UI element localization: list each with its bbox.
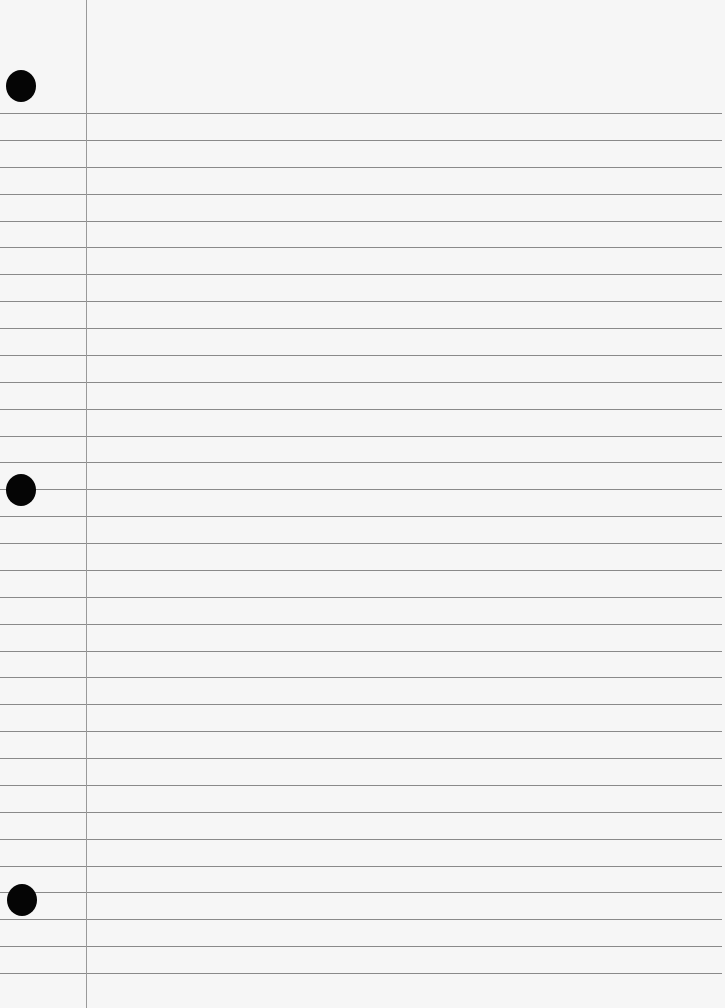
ruled-line: [0, 839, 722, 840]
ruled-line: [0, 167, 722, 168]
margin-line: [86, 0, 87, 1008]
punch-hole: [6, 474, 36, 506]
ruled-line: [0, 274, 722, 275]
ruled-line: [0, 731, 722, 732]
punch-hole: [6, 70, 36, 102]
ruled-line: [0, 597, 722, 598]
ruled-line: [0, 651, 722, 652]
ruled-line: [0, 973, 722, 974]
ruled-line: [0, 866, 722, 867]
ruled-line: [0, 113, 722, 114]
ruled-line: [0, 436, 722, 437]
ruled-line: [0, 301, 722, 302]
ruled-line: [0, 785, 722, 786]
ruled-line: [0, 677, 722, 678]
notebook-paper: [0, 0, 725, 1008]
ruled-line: [0, 946, 722, 947]
ruled-line: [0, 516, 722, 517]
ruled-line: [0, 624, 722, 625]
ruled-line: [0, 812, 722, 813]
ruled-line: [0, 221, 722, 222]
ruled-line: [0, 382, 722, 383]
ruled-line: [0, 570, 722, 571]
ruled-line: [0, 462, 722, 463]
ruled-line: [0, 704, 722, 705]
ruled-line: [0, 247, 722, 248]
ruled-line: [0, 758, 722, 759]
ruled-line: [0, 409, 722, 410]
ruled-line: [0, 328, 722, 329]
ruled-line: [0, 543, 722, 544]
punch-hole: [7, 884, 37, 916]
ruled-line: [0, 194, 722, 195]
ruled-line: [0, 919, 722, 920]
ruled-line: [0, 140, 722, 141]
ruled-line: [0, 892, 722, 893]
ruled-line: [0, 355, 722, 356]
ruled-line: [0, 489, 722, 490]
